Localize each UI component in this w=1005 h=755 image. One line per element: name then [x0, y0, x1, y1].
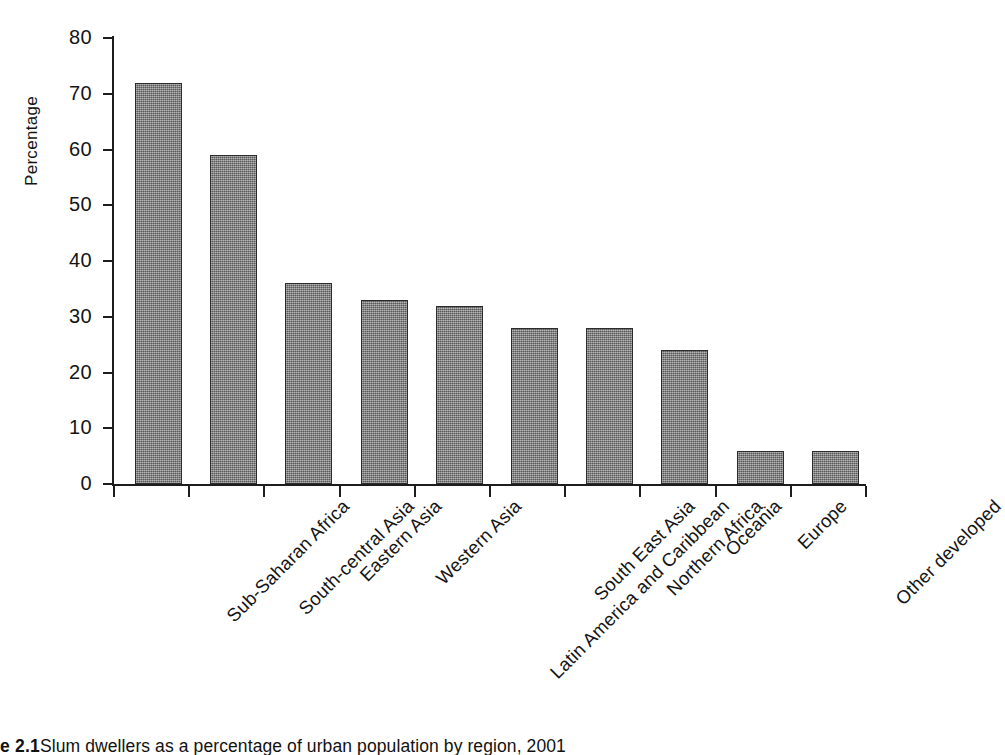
y-axis-tick-label: 20	[0, 362, 92, 382]
y-axis-tick	[103, 372, 113, 374]
bar	[210, 155, 257, 484]
y-axis-tick-label: 0	[0, 473, 92, 493]
x-axis-tick	[188, 486, 190, 497]
y-axis-tick	[103, 483, 113, 485]
y-axis-tick-label: 40	[0, 250, 92, 270]
y-axis-tick-label: 60	[0, 139, 92, 159]
x-axis-tick	[414, 486, 416, 497]
bar	[285, 283, 332, 484]
x-axis-tick	[790, 486, 792, 497]
y-axis-tick-label: 70	[0, 83, 92, 103]
y-axis-tick-label: 30	[0, 306, 92, 326]
x-axis-tick	[639, 486, 641, 497]
bar	[135, 83, 182, 484]
x-axis-tick	[263, 486, 265, 497]
bar	[661, 350, 708, 484]
x-axis-category-label: Europe	[794, 496, 851, 553]
caption-text: Slum dwellers as a percentage of urban p…	[40, 737, 566, 755]
figure-number: e 2.1	[0, 737, 40, 755]
y-axis-tick-label: 50	[0, 194, 92, 214]
chart-plot-area: 01020304050607080 Percentage Sub-Saharan…	[0, 0, 885, 700]
x-axis-category-label: Latin America and Caribbean	[547, 496, 734, 683]
y-axis-tick	[103, 37, 113, 39]
y-axis-tick	[103, 204, 113, 206]
bar	[436, 306, 483, 484]
x-axis-tick	[489, 486, 491, 497]
y-axis-title: Percentage	[22, 158, 42, 186]
bar	[361, 300, 408, 484]
y-axis-tick	[103, 316, 113, 318]
y-axis-tick	[103, 260, 113, 262]
bar	[586, 328, 633, 484]
bar	[511, 328, 558, 484]
x-axis-tick	[865, 486, 867, 497]
y-axis-tick	[103, 427, 113, 429]
x-axis-category-label: South-central Asia	[295, 496, 418, 619]
x-axis-tick	[113, 486, 115, 497]
y-axis-tick-label: 10	[0, 417, 92, 437]
x-axis-category-label: Sub-Saharan Africa	[223, 496, 353, 626]
x-axis-category-label: Western Asia	[433, 496, 526, 589]
bar	[737, 451, 784, 484]
x-axis-tick	[564, 486, 566, 497]
y-axis-tick	[103, 93, 113, 95]
bar	[812, 451, 859, 484]
y-axis-tick	[103, 149, 113, 151]
figure-caption: e 2.1Slum dwellers as a percentage of ur…	[0, 737, 885, 755]
x-axis-category-label: Other developed	[892, 496, 1005, 609]
y-axis-tick-label: 80	[0, 27, 92, 47]
